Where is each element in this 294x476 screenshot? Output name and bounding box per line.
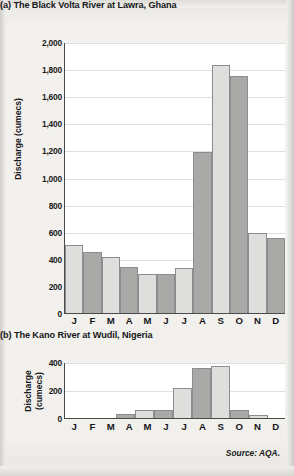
x-tick-label: J: [175, 421, 193, 432]
x-tick-label: M: [102, 421, 120, 432]
x-tick-label: J: [65, 421, 83, 432]
y-tick-label: 0: [58, 309, 62, 319]
bar-M-2: [102, 257, 120, 313]
bar-O-9: [230, 76, 248, 313]
figure-b: (b) The Kano River at Wudil, Nigeria Dis…: [0, 330, 294, 476]
x-tick-label: F: [83, 315, 101, 326]
bar-N-10: [248, 233, 266, 313]
chart-a: Discharge (cumecs) 2,0001,8001,6001,4001…: [0, 0, 294, 330]
x-tick-label: N: [248, 421, 266, 432]
x-tick-label: J: [157, 421, 175, 432]
bar-F-1: [83, 252, 101, 313]
x-tick-label: A: [193, 315, 211, 326]
y-tick-label: 1,600: [42, 92, 62, 102]
x-tick-label: M: [102, 315, 120, 326]
bar-A-7: [192, 368, 211, 418]
source-note: Source: AQA.: [226, 448, 280, 458]
x-tick-label: M: [138, 421, 156, 432]
bar-M-4: [138, 274, 156, 313]
y-tick-label: 2,000: [42, 38, 62, 48]
bar-A-7: [193, 152, 211, 313]
chart-a-plot-area: [64, 43, 285, 314]
bar-N-10: [249, 415, 268, 418]
x-tick-label: J: [175, 315, 193, 326]
y-tick-label: 1,400: [42, 119, 62, 129]
x-tick-label: A: [193, 421, 211, 432]
figure-page: (a) The Black Volta River at Lawra, Ghan…: [0, 0, 294, 476]
chart-b-x-tick-labels: JFMAMJJASOND: [65, 421, 285, 432]
x-tick-label: O: [230, 421, 248, 432]
bar-A-3: [116, 414, 135, 418]
x-tick-label: J: [65, 315, 83, 326]
bar-J-5: [154, 410, 173, 418]
y-tick-label: 200: [49, 282, 62, 292]
bar-J-5: [157, 274, 175, 313]
x-tick-label: M: [138, 315, 156, 326]
chart-a-y-axis-title: Discharge (cumecs): [14, 24, 24, 254]
chart-b-bars: [65, 363, 285, 418]
x-tick-label: S: [212, 421, 230, 432]
bar-S-8: [212, 65, 230, 313]
bar-J-6: [175, 268, 193, 313]
x-tick-label: J: [157, 315, 175, 326]
bar-M-4: [135, 410, 154, 418]
chart-a-x-tick-labels: JFMAMJJASOND: [65, 315, 285, 326]
chart-a-bars: [65, 43, 285, 313]
bar-S-8: [211, 366, 230, 418]
bar-A-3: [120, 267, 138, 313]
bar-D-11: [267, 238, 285, 313]
bar-J-6: [173, 388, 192, 418]
y-tick-label: 400: [49, 255, 62, 265]
chart-b-y-axis-title: Discharge (cumecs): [14, 358, 28, 424]
x-tick-label: D: [267, 421, 285, 432]
y-tick-label: 800: [49, 201, 62, 211]
x-tick-label: S: [212, 315, 230, 326]
y-tick-label: 1,000: [42, 174, 62, 184]
x-tick-label: A: [120, 421, 138, 432]
bar-O-9: [230, 410, 249, 418]
chart-a-y-tick-labels: 2,0001,8001,6001,4001,2001,0008006004002…: [24, 0, 62, 330]
figure-a: (a) The Black Volta River at Lawra, Ghan…: [0, 0, 294, 330]
y-tick-label: 1,200: [42, 146, 62, 156]
x-tick-label: N: [248, 315, 266, 326]
x-tick-label: D: [267, 315, 285, 326]
x-tick-label: F: [83, 421, 101, 432]
y-tick-label: 0: [58, 414, 62, 424]
y-tick-label: 200: [49, 386, 62, 396]
chart-b-y-tick-labels: 4002000: [28, 330, 62, 476]
y-tick-label: 1,800: [42, 65, 62, 75]
y-tick-label: 600: [49, 228, 62, 238]
x-tick-label: A: [120, 315, 138, 326]
chart-b-plot-area: [64, 363, 285, 419]
y-tick-label: 400: [49, 358, 62, 368]
bar-J-0: [65, 245, 83, 313]
chart-b: Discharge (cumecs) 4002000 JFMAMJJASOND …: [0, 330, 294, 476]
x-tick-label: O: [230, 315, 248, 326]
